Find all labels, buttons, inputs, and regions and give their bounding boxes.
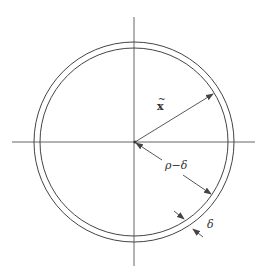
x-tilde-label: ~ x: [157, 101, 164, 112]
delta-arrow-outer: [174, 211, 184, 219]
rho-minus-delta-label: ρ−δ: [165, 160, 187, 171]
x-tilde-arrow: [135, 94, 213, 142]
circle-diagram: [0, 0, 267, 278]
delta-label: δ: [207, 219, 214, 230]
rho-minus-delta-arrow-start: [136, 143, 162, 160]
delta-arrow-inner: [193, 229, 203, 237]
tilde-accent: ~: [158, 95, 166, 104]
rho-minus-delta-arrow-end: [183, 175, 211, 194]
